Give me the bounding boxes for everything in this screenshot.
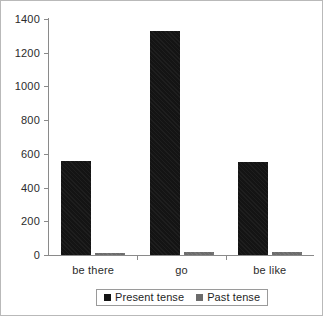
- y-axis-tick-label: 800: [21, 115, 40, 126]
- legend-label: Past tense: [207, 292, 260, 303]
- y-axis-tick-mark: [44, 255, 49, 256]
- bar-be-like-past-tense: [272, 252, 302, 255]
- y-axis-tick-label: 1000: [15, 81, 40, 92]
- y-axis-tick-label: 200: [21, 216, 40, 227]
- bar-be-there-present-tense: [61, 161, 91, 255]
- legend-item-past: Past tense: [196, 292, 260, 303]
- legend-swatch-past-icon: [196, 294, 203, 301]
- y-axis-tick-label: 600: [21, 149, 40, 160]
- legend-item-present: Present tense: [104, 292, 184, 303]
- x-axis-tick-mark: [226, 256, 227, 260]
- x-axis-tick-label: go: [132, 264, 232, 276]
- y-axis-tick-label: 400: [21, 183, 40, 194]
- bar-chart-figure: 0200400600800100012001400 be theregobe l…: [0, 0, 323, 316]
- chart-legend: Present tensePast tense: [96, 289, 268, 306]
- x-axis-tick-label: be there: [43, 264, 143, 276]
- bar-be-like-present-tense: [238, 162, 268, 255]
- y-axis-tick-label: 1400: [15, 14, 40, 25]
- legend-label: Present tense: [115, 292, 184, 303]
- y-axis-tick-label: 1200: [15, 48, 40, 59]
- y-axis-tick-label: 0: [34, 250, 40, 261]
- x-axis-tick-label: be like: [220, 264, 320, 276]
- plot-area: [49, 19, 314, 255]
- legend-swatch-present-icon: [104, 294, 111, 301]
- bar-go-present-tense: [150, 31, 180, 255]
- bar-be-there-past-tense: [95, 253, 125, 255]
- x-axis-tick-mark: [137, 256, 138, 260]
- x-axis-line: [48, 255, 314, 256]
- bar-go-past-tense: [184, 252, 214, 255]
